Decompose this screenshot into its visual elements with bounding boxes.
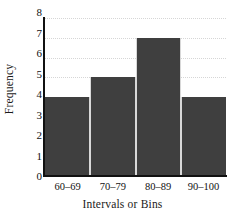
x-tick-label-2: 80–89	[136, 179, 181, 195]
y-axis-title: Frequency	[0, 0, 18, 178]
x-tick-label-3: 90–100	[181, 179, 226, 195]
y-tick-label-4: 4	[20, 88, 42, 100]
y-axis-title-label: Frequency	[3, 64, 15, 114]
y-tick-label-6: 6	[20, 47, 42, 59]
plot-area	[45, 18, 226, 176]
y-tick-label-5: 5	[20, 68, 42, 80]
y-tick-label-7: 7	[20, 27, 42, 39]
bar-60-69	[45, 97, 90, 176]
y-tick-label-2: 2	[20, 129, 42, 141]
y-axis-line	[43, 17, 45, 177]
x-tick-label-1: 70–79	[90, 179, 135, 195]
y-tick-label-3: 3	[20, 109, 42, 121]
bar-90-100	[181, 97, 226, 176]
x-axis-line	[43, 175, 227, 177]
y-axis-tick-labels: 8 7 6 5 4 3 2 1 0	[20, 12, 42, 176]
x-axis-title: Intervals or Bins	[0, 198, 245, 210]
x-tick-label-0: 60–69	[45, 179, 90, 195]
histogram-chart: Frequency 8 7 6 5 4 3 2 1 0 60–69 70–79 …	[0, 0, 245, 223]
bar-80-89	[136, 38, 182, 176]
y-tick-label-1: 1	[20, 150, 42, 162]
x-axis-tick-labels: 60–69 70–79 80–89 90–100	[45, 179, 226, 195]
y-tick-label-0: 0	[20, 170, 42, 182]
y-tick-label-8: 8	[20, 6, 42, 18]
bars-layer	[45, 18, 226, 176]
bar-70-79	[90, 77, 136, 176]
